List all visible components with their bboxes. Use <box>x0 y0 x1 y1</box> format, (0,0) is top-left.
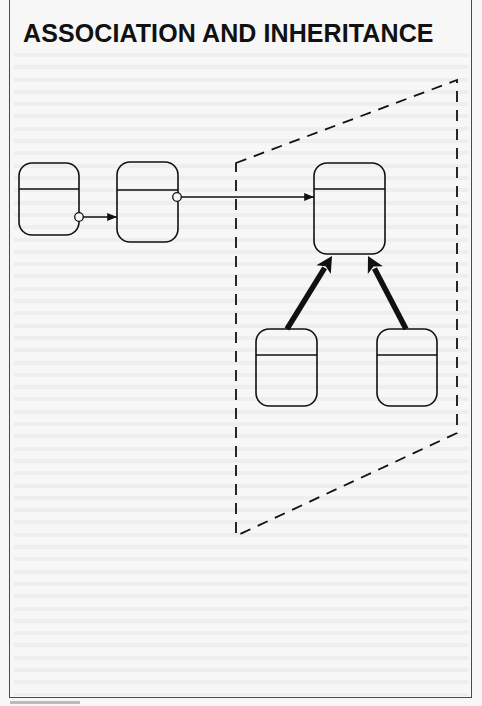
inheritance-arrow-subclass-left <box>287 256 332 329</box>
object-box-object-b <box>117 162 178 242</box>
association-port-circle-icon <box>173 193 182 202</box>
object-box-subclass-right <box>377 329 437 406</box>
page: ASSOCIATION AND INHERITANCE <box>0 0 482 706</box>
object-box-subclass-left <box>256 329 317 406</box>
association-port-circle-icon <box>75 213 84 222</box>
inheritance-shaft <box>374 268 406 329</box>
object-box-object-a <box>19 163 79 235</box>
association-inheritance-diagram <box>0 0 482 706</box>
inheritance-arrow-subclass-right <box>368 256 406 329</box>
association-object-a-to-object-b <box>75 213 117 222</box>
object-outline <box>314 163 385 254</box>
association-object-b-to-superclass <box>173 193 314 202</box>
object-box-superclass <box>314 163 385 254</box>
inheritance-shaft <box>287 268 325 329</box>
object-outline <box>19 163 79 235</box>
page-edge-mark <box>10 701 80 704</box>
class-hierarchy-boundary <box>236 80 457 536</box>
object-outline <box>256 329 317 406</box>
object-outline <box>117 162 178 242</box>
object-outline <box>377 329 437 406</box>
